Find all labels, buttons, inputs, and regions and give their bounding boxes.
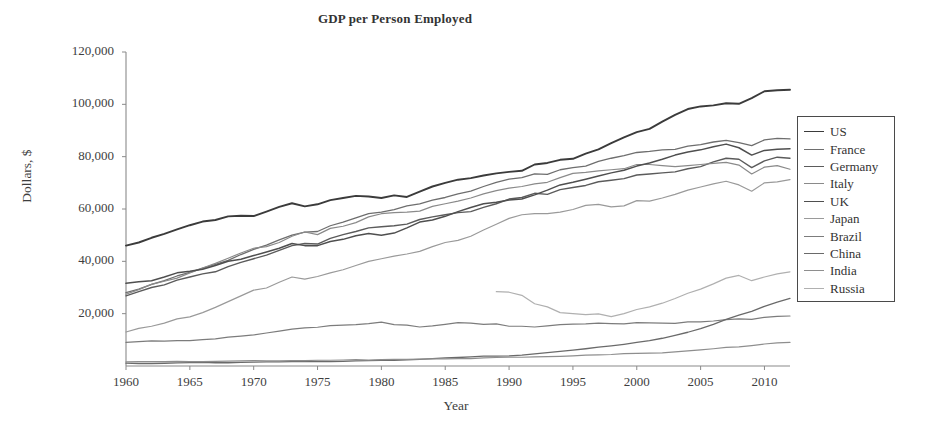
legend-swatch-icon: [804, 253, 824, 254]
legend-item-uk[interactable]: UK: [804, 193, 890, 210]
legend-item-brazil[interactable]: Brazil: [804, 227, 890, 244]
y-tick-marks: [122, 52, 126, 314]
x-axis-title: Year: [126, 398, 786, 414]
legend-item-china[interactable]: China: [804, 245, 890, 262]
legend-label: India: [830, 264, 857, 277]
legend-item-germany[interactable]: Germany: [804, 158, 890, 175]
legend-item-france[interactable]: France: [804, 140, 890, 157]
x-tick-label: 1960: [96, 374, 156, 390]
legend-swatch-icon: [804, 201, 824, 202]
legend-label: UK: [830, 195, 849, 208]
legend: USFranceGermanyItalyUKJapanBrazilChinaIn…: [797, 116, 895, 302]
axis-lines: [126, 52, 790, 366]
x-tick-marks: [126, 366, 764, 370]
legend-label: US: [830, 125, 847, 138]
x-tick-label: 1965: [160, 374, 220, 390]
y-tick-label: 80,000: [34, 148, 114, 164]
x-tick-label: 2010: [734, 374, 794, 390]
legend-swatch-icon: [804, 131, 824, 132]
x-tick-label: 1970: [224, 374, 284, 390]
legend-swatch-icon: [804, 270, 824, 271]
legend-label: France: [830, 143, 865, 156]
series-line-india: [126, 342, 790, 361]
y-tick-label: 120,000: [34, 43, 114, 59]
y-tick-label: 40,000: [34, 252, 114, 268]
series-lines: [126, 90, 790, 364]
series-line-france: [126, 138, 790, 292]
legend-label: Italy: [830, 177, 854, 190]
legend-swatch-icon: [804, 236, 824, 237]
chart-figure: GDP per Person Employed Dollars, $ Year …: [0, 0, 937, 430]
x-tick-label: 2000: [607, 374, 667, 390]
legend-swatch-icon: [804, 183, 824, 184]
legend-item-japan[interactable]: Japan: [804, 210, 890, 227]
legend-swatch-icon: [804, 288, 824, 289]
legend-item-us[interactable]: US: [804, 123, 890, 140]
series-line-japan: [126, 180, 790, 332]
legend-item-india[interactable]: India: [804, 262, 890, 279]
legend-label: Japan: [830, 212, 860, 225]
series-line-china: [126, 298, 790, 363]
x-tick-label: 1985: [415, 374, 475, 390]
y-tick-label: 60,000: [34, 200, 114, 216]
legend-swatch-icon: [804, 218, 824, 219]
series-line-brazil: [126, 316, 790, 342]
legend-item-russia[interactable]: Russia: [804, 280, 890, 297]
x-tick-label: 1975: [288, 374, 348, 390]
legend-label: Germany: [830, 160, 878, 173]
legend-label: Russia: [830, 282, 865, 295]
x-tick-label: 1995: [543, 374, 603, 390]
series-line-italy: [126, 162, 790, 294]
legend-swatch-icon: [804, 166, 824, 167]
x-tick-label: 1980: [351, 374, 411, 390]
series-line-russia: [496, 272, 790, 317]
x-tick-label: 2005: [671, 374, 731, 390]
series-line-germany: [126, 157, 790, 296]
legend-item-italy[interactable]: Italy: [804, 175, 890, 192]
legend-label: China: [830, 247, 861, 260]
y-tick-label: 20,000: [34, 305, 114, 321]
x-tick-label: 1990: [479, 374, 539, 390]
y-tick-label: 100,000: [34, 95, 114, 111]
y-axis-title: Dollars, $: [19, 126, 35, 226]
legend-label: Brazil: [830, 230, 862, 243]
legend-swatch-icon: [804, 149, 824, 150]
